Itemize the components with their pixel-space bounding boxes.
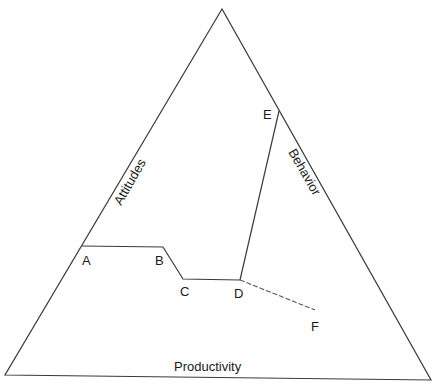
point-label-a: A bbox=[82, 253, 91, 268]
point-label-b: B bbox=[155, 253, 164, 268]
triangle-outline bbox=[5, 9, 431, 380]
side-label-behavior: Behavior bbox=[285, 146, 324, 199]
side-label-productivity: Productivity bbox=[174, 359, 242, 374]
point-label-f: F bbox=[311, 319, 319, 334]
path-d-f-dashed bbox=[240, 280, 315, 310]
point-label-e: E bbox=[263, 107, 272, 122]
point-label-d: D bbox=[234, 286, 243, 301]
point-label-c: C bbox=[180, 284, 189, 299]
path-d-e bbox=[240, 111, 279, 280]
triangle-diagram: Attitudes Behavior Productivity A B C D … bbox=[0, 0, 436, 388]
